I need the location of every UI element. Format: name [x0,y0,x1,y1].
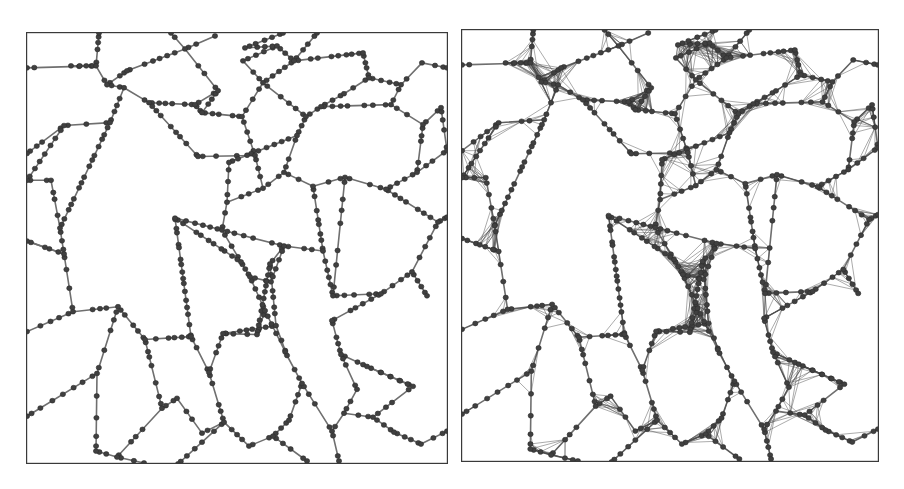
graph-node [381,423,386,428]
graph-node [626,444,631,449]
graph-node [225,192,230,197]
graph-node [472,175,477,180]
graph-node [506,383,511,388]
graph-node [614,274,619,279]
graph-node [272,305,277,310]
graph-node [92,153,97,158]
graph-node [823,428,828,433]
graph-node [280,441,285,446]
graph-node [619,310,624,315]
graph-node [56,315,61,320]
graph-node [260,80,265,85]
graph-node [342,293,347,298]
graph-node [592,98,597,103]
graph-node [782,83,787,88]
graph-node [96,144,101,149]
graph-node [682,325,687,330]
graph-node [97,306,102,311]
graph-node [851,58,856,63]
graph-node [466,165,471,170]
graph-node [417,255,422,260]
graph-node [684,67,689,72]
graph-node [80,380,85,385]
graph-node [415,278,420,283]
graph-node [305,42,310,47]
graph-node [826,178,831,183]
graph-node [306,392,311,397]
graph-fine-link [686,94,714,97]
graph-node [673,56,678,61]
graph-node [633,107,638,112]
graph-node [257,76,262,81]
graph-node [369,297,374,302]
graph-node [237,329,242,334]
graph-node [835,74,840,79]
graph-fine-link [583,337,589,355]
graph-node [850,282,855,287]
graph-node [156,394,161,399]
graph-node [689,84,694,89]
graph-node [263,325,268,330]
graph-node [262,308,267,313]
graph-node [149,363,154,368]
graph-node [178,257,183,262]
graph-node [320,249,325,254]
graph-node [681,136,686,141]
graph-fine-link [746,187,749,208]
graph-node [349,52,354,57]
graph-node [688,163,693,168]
graph-node [739,390,744,395]
graph-node [553,88,558,93]
graph-node [503,61,508,66]
graph-node [257,318,262,323]
graph-node [652,244,657,249]
graph-node [799,100,804,105]
graph-node [467,62,472,67]
graph-node [581,352,586,357]
graph-node [792,48,797,53]
graph-node [623,415,628,420]
graph-node [270,274,275,279]
graph-node [748,215,753,220]
graph-fine-link [801,79,821,102]
graph-node [56,250,61,255]
graph-node [755,256,760,261]
graph-node [626,218,631,223]
graph-node [471,139,476,144]
graph-node [356,413,361,418]
graph-node [296,177,301,182]
graph-node [617,138,622,143]
graph-node [279,338,284,343]
panel-frame [27,33,448,464]
graph-node [293,106,298,111]
graph-node [798,72,803,77]
graph-node [182,289,187,294]
graph-node [104,82,109,87]
graph-node [770,218,775,223]
graph-node [774,177,779,182]
graph-node [318,232,323,237]
graph-node [643,379,648,384]
graph-node [545,315,550,320]
graph-node [335,248,340,253]
graph-node [245,130,250,135]
graph-node [774,172,779,177]
graph-node [200,223,205,228]
graph-node [199,440,204,445]
graph-node [250,327,255,332]
graph-node [606,213,611,218]
graph-node [703,286,708,291]
graph-node [406,387,411,392]
graph-node [402,434,407,439]
graph-link [185,49,218,91]
graph-node [62,217,67,222]
graph-node [172,50,177,55]
graph-node [308,57,313,62]
graph-node [345,104,350,109]
graph-node [172,335,177,340]
graph-node [677,150,682,155]
graph-link [401,63,422,85]
graph-node [61,247,66,252]
graph-node [473,403,478,408]
graph-node [255,188,260,193]
